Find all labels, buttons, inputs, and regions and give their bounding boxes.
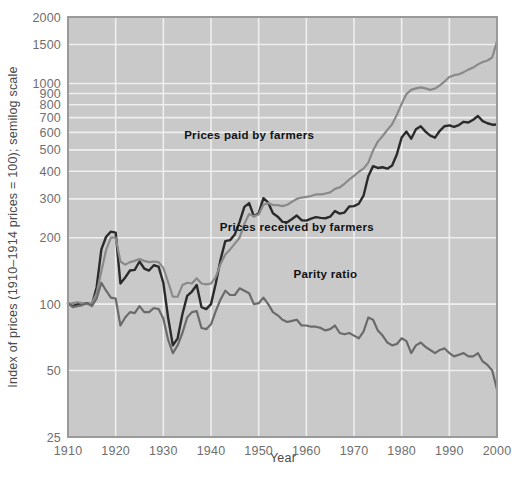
x-tick-label: 1920 — [101, 444, 130, 458]
x-tick-label: 1950 — [244, 444, 273, 458]
x-tick-label: 1990 — [435, 444, 464, 458]
chart-figure: 2550100200300400500600700800900100015002… — [0, 0, 523, 479]
x-tick-label: 1910 — [54, 444, 83, 458]
x-tick-label: 1980 — [387, 444, 416, 458]
y-axis-title: Index of prices (1910–1914 prices = 100)… — [6, 66, 20, 387]
x-tick-label: 1970 — [340, 444, 369, 458]
y-axis-tick-labels: 2550100200300400500600700800900100015002… — [32, 11, 61, 445]
y-tick-label: 200 — [40, 231, 61, 245]
price-index-line-chart: 2550100200300400500600700800900100015002… — [0, 0, 523, 479]
y-tick-label: 100 — [40, 298, 61, 312]
series-label-1: Prices paid by farmers — [184, 129, 314, 141]
y-tick-label: 600 — [40, 126, 61, 140]
series-label-0: Prices received by farmers — [220, 221, 374, 233]
x-tick-label: 1930 — [149, 444, 178, 458]
x-axis-title: Year — [270, 451, 296, 465]
y-tick-label: 500 — [40, 143, 61, 157]
y-tick-label: 400 — [40, 165, 61, 179]
x-tick-label: 2000 — [483, 444, 512, 458]
x-tick-label: 1940 — [197, 444, 226, 458]
y-tick-label: 700 — [40, 111, 61, 125]
y-tick-label: 1000 — [32, 77, 61, 91]
y-tick-label: 50 — [47, 364, 61, 378]
x-tick-label: 1960 — [292, 444, 321, 458]
y-tick-label: 2000 — [32, 11, 61, 25]
y-tick-label: 25 — [47, 431, 61, 445]
series-label-2: Parity ratio — [294, 268, 358, 280]
y-tick-label: 1500 — [32, 38, 61, 52]
y-tick-label: 300 — [40, 192, 61, 206]
